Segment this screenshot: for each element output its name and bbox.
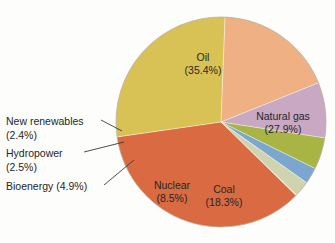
pie-chart-canvas: Oil(35.4%)Natural gas(27.9%)Coal(18.3%)N… (0, 0, 335, 243)
slice-label-name-nuclear: Nuclear (154, 179, 191, 191)
leader-line-hydropower (84, 142, 124, 152)
callout-label-new-renewables: New renewables (6, 115, 84, 127)
slice-label-nuclear: Nuclear(8.5%) (154, 179, 191, 204)
pie-callout-labels-group: New renewables(2.4%)Hydropower(2.5%)Bioe… (6, 115, 87, 192)
slice-label-value-oil: (35.4%) (185, 64, 222, 76)
slice-label-name-natural-gas: Natural gas (256, 110, 310, 122)
pie-chart-figure: Oil(35.4%)Natural gas(27.9%)Coal(18.3%)N… (0, 0, 335, 243)
callout-value-hydropower: (2.5%) (6, 161, 37, 173)
slice-label-value-natural-gas: (27.9%) (265, 123, 302, 135)
pie-slice-natural-gas[interactable] (116, 17, 225, 137)
callout-label-bioenergy: Bioenergy (4.9%) (6, 180, 87, 192)
slice-label-name-oil: Oil (197, 51, 210, 63)
slice-label-name-coal: Coal (213, 183, 235, 195)
callout-value-new-renewables: (2.4%) (6, 129, 37, 141)
slice-label-value-nuclear: (8.5%) (157, 192, 188, 204)
slice-label-value-coal: (18.3%) (206, 196, 243, 208)
callout-label-hydropower: Hydropower (6, 147, 63, 159)
